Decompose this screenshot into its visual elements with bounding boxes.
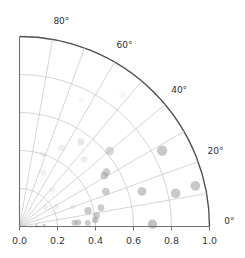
polar-grid (20, 37, 210, 227)
data-point (137, 187, 146, 196)
data-point (105, 146, 114, 155)
data-point (43, 205, 48, 210)
data-point (50, 187, 56, 193)
data-point (40, 151, 46, 157)
data-point (78, 139, 85, 146)
data-point (70, 204, 76, 210)
polar-scatter-chart: 0.00.20.40.60.81.00°20°40°60°80° (0, 0, 245, 258)
data-point (58, 144, 64, 150)
data-point (81, 156, 87, 162)
radial-tick-label: 1.0 (202, 235, 217, 246)
angular-tick-label: 0° (224, 216, 234, 226)
data-point (157, 145, 167, 155)
radial-tick-label: 0.6 (126, 235, 141, 246)
angular-tick-label: 80° (53, 16, 69, 26)
polar-plot-svg: 0.00.20.40.60.81.00°20°40°60°80° (0, 0, 245, 258)
data-points-layer (35, 91, 200, 228)
data-point (171, 189, 181, 199)
radial-tick-label: 0.4 (88, 235, 103, 246)
data-point (191, 181, 201, 191)
data-point (93, 212, 100, 219)
radial-tick-label: 0.2 (50, 235, 65, 246)
data-point (119, 91, 126, 98)
data-point (54, 204, 60, 210)
data-point (103, 168, 111, 176)
angular-tick-label: 20° (208, 146, 224, 156)
data-point (40, 170, 46, 176)
data-point (75, 219, 81, 225)
data-point (102, 188, 110, 196)
data-point (148, 220, 157, 229)
data-point (78, 97, 84, 103)
radial-tick-label: 0.8 (164, 235, 179, 246)
radial-tick-label: 0.0 (12, 235, 27, 246)
data-point (98, 204, 105, 211)
axis-labels: 0.00.20.40.60.81.00°20°40°60°80° (12, 16, 235, 246)
angular-tick-label: 40° (171, 85, 187, 95)
data-point (84, 207, 91, 214)
angular-tick-label: 60° (117, 40, 133, 50)
data-point (85, 220, 91, 226)
